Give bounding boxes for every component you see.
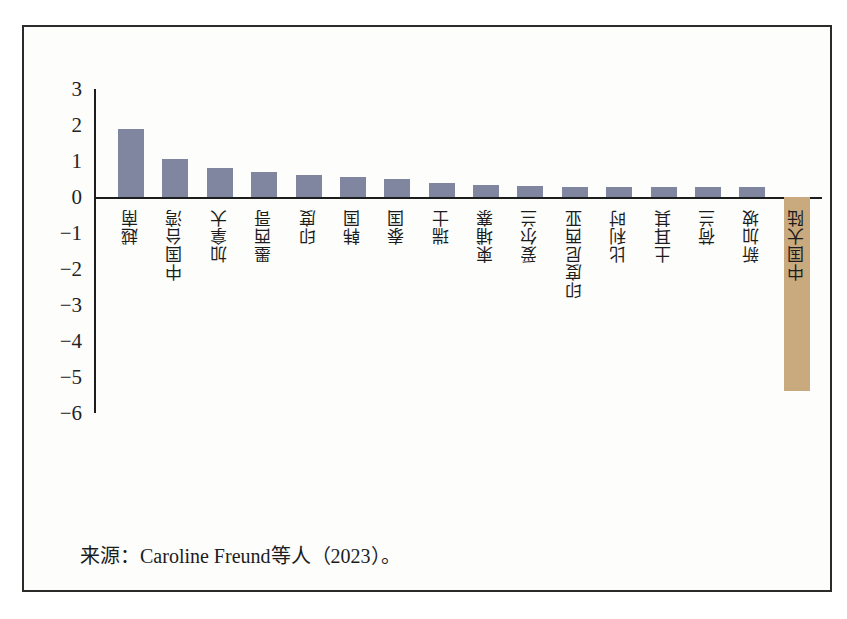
category-label: 印度 bbox=[300, 209, 317, 245]
category-label: 新加坡 bbox=[743, 209, 760, 263]
bar-slot bbox=[429, 89, 455, 413]
y-tick-1: 1 bbox=[72, 151, 83, 172]
bar-slot bbox=[384, 89, 410, 413]
bar bbox=[207, 168, 233, 197]
plot-area: 3210−1−2−3−4−5−6 越南中国台湾加拿大墨西哥印度韩国泰国瑞士柬埔寨… bbox=[94, 89, 822, 413]
bar bbox=[296, 175, 322, 197]
category-label: 墨西哥 bbox=[255, 209, 272, 263]
bar-slot bbox=[118, 89, 144, 413]
bar bbox=[739, 187, 765, 197]
y-tick-0: 0 bbox=[72, 187, 83, 208]
bar bbox=[517, 186, 543, 197]
bar bbox=[251, 172, 277, 197]
bar bbox=[118, 129, 144, 197]
y-tick-neg6: −6 bbox=[60, 403, 82, 424]
category-label: 土耳其 bbox=[655, 209, 672, 263]
y-axis-line bbox=[94, 89, 96, 413]
category-label: 瑞士 bbox=[433, 209, 450, 245]
category-label: 越南 bbox=[122, 209, 139, 245]
y-tick-3: 3 bbox=[72, 79, 83, 100]
category-label: 爱尔兰 bbox=[521, 209, 538, 263]
category-label: 韩国 bbox=[344, 209, 361, 245]
bar-slot bbox=[340, 89, 366, 413]
bar bbox=[162, 159, 188, 197]
bar bbox=[651, 187, 677, 197]
bar bbox=[384, 179, 410, 197]
source-note: 来源：Caroline Freund等人（2023）。 bbox=[80, 540, 401, 569]
category-label: 柬埔寨 bbox=[477, 209, 494, 263]
y-tick-neg3: −3 bbox=[60, 295, 82, 316]
category-label: 中国大陆 bbox=[788, 209, 805, 281]
bar-slot bbox=[695, 89, 721, 413]
category-label: 比利时 bbox=[610, 209, 627, 263]
category-label: 泰国 bbox=[388, 209, 405, 245]
y-tick-neg5: −5 bbox=[60, 367, 82, 388]
category-label: 中国台湾 bbox=[166, 209, 183, 281]
bar bbox=[340, 177, 366, 197]
bar-slot bbox=[296, 89, 322, 413]
y-tick-2: 2 bbox=[72, 115, 83, 136]
bar bbox=[473, 185, 499, 197]
category-label: 印度尼西亚 bbox=[566, 209, 583, 299]
bar bbox=[429, 183, 455, 197]
bar bbox=[606, 187, 632, 197]
y-tick-neg1: −1 bbox=[60, 223, 82, 244]
category-label: 荷兰 bbox=[699, 209, 716, 245]
y-tick-neg2: −2 bbox=[60, 259, 82, 280]
figure-frame: 3210−1−2−3−4−5−6 越南中国台湾加拿大墨西哥印度韩国泰国瑞士柬埔寨… bbox=[22, 25, 832, 592]
bar bbox=[562, 187, 588, 197]
bar bbox=[695, 187, 721, 197]
category-label: 加拿大 bbox=[211, 209, 228, 263]
y-tick-neg4: −4 bbox=[60, 331, 82, 352]
